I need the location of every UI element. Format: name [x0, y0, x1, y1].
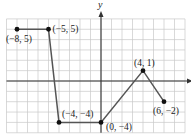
point-label: (−4, −4)	[62, 109, 93, 120]
plot-area: xy (−8, 5)(−5, 5)(−4, −4)(0, −4)(4, 1)(6…	[0, 0, 191, 140]
data-point	[46, 27, 51, 32]
point-label: (−8, 5)	[6, 34, 32, 45]
point-label: (0, −4)	[106, 122, 132, 133]
y-axis-arrow-icon	[99, 11, 104, 17]
piecewise-graph-chart: xy (−8, 5)(−5, 5)(−4, −4)(0, −4)(4, 1)(6…	[0, 0, 191, 140]
data-point	[57, 120, 62, 125]
data-point	[162, 99, 167, 104]
y-axis-label: y	[97, 0, 103, 10]
x-axis-arrow-icon	[187, 79, 191, 84]
point-labels: (−8, 5)(−5, 5)(−4, −4)(0, −4)(4, 1)(6, −…	[6, 24, 179, 133]
data-point	[99, 120, 104, 125]
point-label: (6, −2)	[153, 106, 179, 117]
data-point	[15, 27, 20, 32]
point-label: (−5, 5)	[53, 24, 79, 35]
data-point	[141, 68, 146, 73]
point-label: (4, 1)	[134, 58, 155, 69]
